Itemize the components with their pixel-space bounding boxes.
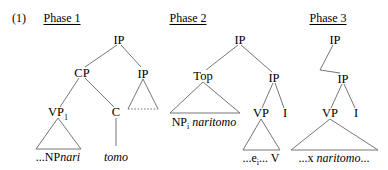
phase-1-node-c: C: [112, 106, 120, 119]
phase-2-terminal-top-contents: NPi naritomo: [172, 116, 237, 131]
phase-2-terminal-top-plain: NP: [172, 115, 187, 129]
phase-1-title: Phase 1: [44, 12, 81, 24]
phase-2-terminal-vp-contents: ...ei... V: [242, 152, 279, 167]
phase-2-node-top: Top: [193, 70, 212, 83]
phase-3-title: Phase 3: [310, 12, 347, 24]
phase-1-node-vp1-label: VP: [48, 105, 64, 119]
phase-3-terminal-vp-contents: ...x naritomo...: [298, 152, 369, 164]
phase-2-node-ip-embedded: IP: [268, 72, 279, 85]
phase-2-node-i: I: [283, 107, 287, 120]
phase-1-terminal-vp-plain: ...NP: [36, 150, 60, 164]
phase-1-node-vp1: VP1: [48, 106, 68, 122]
phase-2-node-ip-root: IP: [234, 34, 245, 47]
phase-3-terminal-vp-tail: ...: [361, 151, 370, 165]
phase-3-node-ip-root: IP: [329, 34, 340, 47]
phase-2-terminal-vp-plain: ...e: [242, 151, 256, 165]
phase-2-node-vp: VP: [253, 107, 269, 120]
phase-3-node-i: I: [354, 107, 358, 120]
tree-branch-lines: [0, 0, 388, 170]
phase-1-terminal-vp-italic: nari: [60, 150, 80, 164]
phase-1-node-cp: CP: [74, 67, 89, 80]
phase-3-terminal-vp-plain: ...x: [298, 151, 316, 165]
phase-1-terminal-vp-contents: ...NPnari: [36, 151, 80, 163]
phase-2-title: Phase 2: [170, 12, 207, 24]
phase-2-terminal-vp-tail: ... V: [259, 151, 279, 165]
phase-3-node-vp: VP: [322, 107, 338, 120]
phase-1-terminal-c-contents: tomo: [104, 151, 128, 163]
example-number: (1): [12, 12, 26, 24]
phase-3-node-ip-embedded: IP: [337, 73, 348, 86]
phase-1-node-ip-root: IP: [113, 34, 124, 47]
syntax-tree-figure: (1) Phase 1 Phase 2 Phase 3 IP CP IP VP1…: [0, 0, 388, 170]
phase-1-node-ip-embedded: IP: [137, 68, 148, 81]
phase-3-terminal-vp-italic: naritomo: [316, 151, 360, 165]
phase-2-terminal-top-italic: naritomo: [189, 115, 236, 129]
phase-1-node-vp1-subscript: 1: [64, 113, 68, 122]
